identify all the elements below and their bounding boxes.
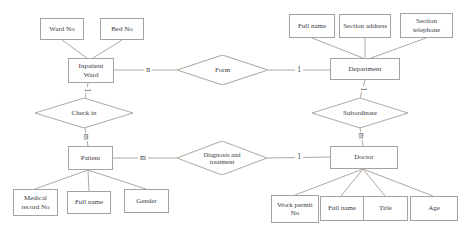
cardinality-diagnosis-doctor: 1 xyxy=(295,153,303,161)
attribute-medical-record-no: Medical record No xyxy=(13,189,58,216)
relationship-form: Form xyxy=(177,55,268,85)
attribute-section-telephone: Section telephone xyxy=(400,13,453,38)
entity-department: Department xyxy=(330,58,400,80)
attribute-section-address: Section address xyxy=(339,14,391,38)
attribute-doctor-full-name: Full name xyxy=(320,196,364,221)
entity-doctor: Doctor xyxy=(330,146,398,169)
edge-fullname-department xyxy=(312,38,363,58)
attribute-age: Age xyxy=(410,196,458,221)
relationship-diagnosis-label: Diagnosis and treatment xyxy=(196,151,248,166)
edge-patient-medicalno xyxy=(35,170,88,189)
attribute-patient-full-name: Full name xyxy=(67,191,111,214)
cardinality-ward-check-in: 1 xyxy=(83,87,91,93)
cardinality-patient-diagnosis: m xyxy=(138,154,148,162)
relationship-subordinate: Subordinate xyxy=(312,98,408,128)
entity-patient: Patient xyxy=(68,146,113,170)
cardinality-ward-form: n xyxy=(144,66,152,74)
er-diagram: Ward No Bed No Full name Section address… xyxy=(0,0,464,230)
relationship-check-in-label: Check in xyxy=(71,109,96,117)
attribute-title: Title xyxy=(363,196,408,221)
relationship-subordinate-label: Subordinate xyxy=(343,109,377,117)
cardinality-form-department: 1 xyxy=(295,66,303,74)
edge-patient-fullname xyxy=(88,170,89,191)
cardinality-subordinate-doctor: m xyxy=(357,132,365,140)
relationship-diagnosis: Diagnosis and treatment xyxy=(177,141,267,175)
cardinality-department-subordinate: 1 xyxy=(359,86,367,92)
edge-telephone-department xyxy=(371,38,426,58)
relationship-check-in: Check in xyxy=(35,98,133,128)
relationship-form-label: Form xyxy=(215,66,230,74)
attribute-bed-no: Bed No xyxy=(100,18,144,40)
entity-inpatient-ward: Inpatient Ward xyxy=(68,58,114,83)
edge-patient-gender xyxy=(88,170,146,189)
edge-wardno-ward xyxy=(62,40,87,58)
edge-bedno-ward xyxy=(93,40,122,58)
attribute-work-permit-no: Work permit No xyxy=(271,195,319,223)
attribute-dept-full-name: Full name xyxy=(289,14,335,38)
attribute-ward-no: Ward No xyxy=(40,18,84,40)
attribute-gender: Gender xyxy=(124,189,169,213)
cardinality-check-in-patient: m xyxy=(82,133,90,141)
